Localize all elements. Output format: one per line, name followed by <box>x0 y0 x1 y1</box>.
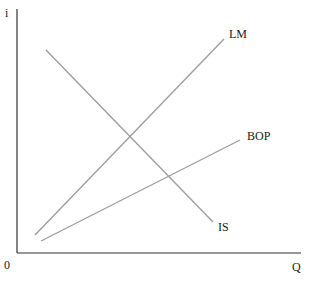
is-lm-bop-chart: i 0 Q IS LM BOP <box>0 0 318 284</box>
bop-label: BOP <box>247 129 271 143</box>
x-axis-label: Q <box>292 260 301 274</box>
lm-label: LM <box>229 27 247 41</box>
bop-curve <box>41 140 240 241</box>
y-axis-label: i <box>5 6 9 20</box>
origin-label: 0 <box>4 258 10 272</box>
is-label: IS <box>218 220 229 234</box>
